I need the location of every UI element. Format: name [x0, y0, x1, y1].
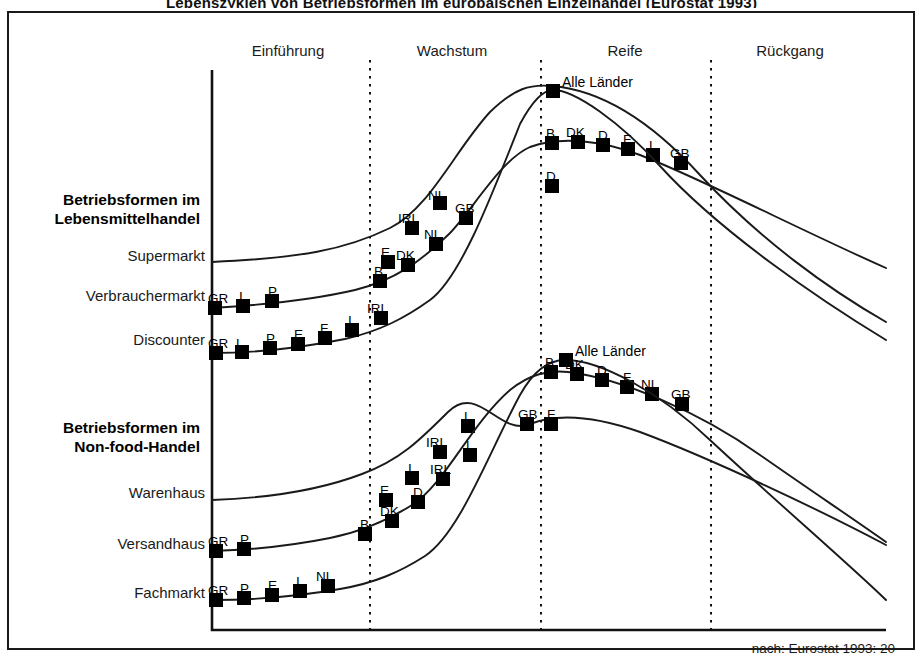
country-label: NL [641, 378, 658, 392]
country-label: GB [670, 147, 690, 161]
country-label: GR [208, 535, 228, 549]
country-label: D [546, 170, 556, 184]
country-label: B [360, 518, 369, 532]
country-label: GR [208, 292, 228, 306]
country-label: GB [518, 408, 538, 422]
group-heading-nonfood: Betriebsformen imNon-food-Handel [0, 418, 200, 456]
country-label: NL [316, 570, 333, 584]
group-heading-food: Betriebsformen imLebensmittelhandel [0, 190, 200, 228]
country-label: IRL [398, 212, 419, 226]
country-label: P [268, 285, 277, 299]
row-label-versandhaus: Versandhaus [0, 535, 205, 552]
row-label-supermarkt: Supermarkt [0, 247, 205, 264]
country-label: GB [671, 388, 691, 402]
country-label: E [294, 328, 303, 342]
group-heading-line: Betriebsformen im [0, 190, 200, 209]
country-label: I [348, 314, 352, 328]
country-label: P [266, 332, 275, 346]
country-label: GR [208, 584, 228, 598]
country-label: F [547, 408, 555, 422]
country-label: F [320, 322, 328, 336]
country-label: P [240, 582, 249, 596]
country-label: F [623, 133, 631, 147]
country-label: NL [424, 228, 441, 242]
country-label: D [413, 486, 423, 500]
source-note: nach: Eurostat 1993: 20 [752, 641, 895, 656]
annotation-label: Alle Länder [575, 344, 646, 358]
country-label: I [408, 462, 412, 476]
country-label: L [236, 337, 244, 351]
country-label: L [649, 139, 657, 153]
country-label: E [381, 246, 390, 260]
row-label-verbrauchermarkt: Verbrauchermarkt [0, 287, 205, 304]
country-label: L [464, 410, 472, 424]
annotation-label: Alle Länder [562, 75, 633, 89]
row-label-discounter: Discounter [0, 331, 205, 348]
country-label: B [546, 127, 555, 141]
group-heading-line: Betriebsformen im [0, 418, 200, 437]
country-label: GB [455, 202, 475, 216]
country-label: I [296, 575, 300, 589]
phase-label-einfuehrung: Einführung [198, 42, 378, 59]
country-label: D [597, 364, 607, 378]
country-label: D [598, 129, 608, 143]
country-label: F [623, 371, 631, 385]
country-label: E [380, 484, 389, 498]
country-label: DK [565, 358, 584, 372]
country-label: DK [396, 249, 415, 263]
group-heading-line: Lebensmittelhandel [0, 209, 200, 228]
row-label-fachmarkt: Fachmarkt [0, 584, 205, 601]
retail-lifecycle-figure: Lebenszyklen von Betriebsformen im europ… [0, 0, 923, 668]
country-label: IRL [426, 436, 447, 450]
country-label: B [545, 356, 554, 370]
country-label: L [466, 439, 474, 453]
row-label-warenhaus: Warenhaus [0, 484, 205, 501]
group-heading-line: Non-food-Handel [0, 437, 200, 456]
country-label: DK [380, 505, 399, 519]
phase-label-rueckgang: Rückgang [700, 42, 880, 59]
country-label: GR [208, 337, 228, 351]
country-label: DK [566, 126, 585, 140]
country-label: B [374, 265, 383, 279]
country-label: P [240, 533, 249, 547]
phase-label-wachstum: Wachstum [362, 42, 542, 59]
country-label: NL [428, 189, 445, 203]
country-label: I [239, 290, 243, 304]
country-label: IRL [430, 463, 451, 477]
figure-title: Lebenszyklen von Betriebsformen im europ… [0, 0, 923, 8]
country-label: IRL [367, 302, 388, 316]
country-label: E [268, 579, 277, 593]
phase-label-reife: Reife [535, 42, 715, 59]
